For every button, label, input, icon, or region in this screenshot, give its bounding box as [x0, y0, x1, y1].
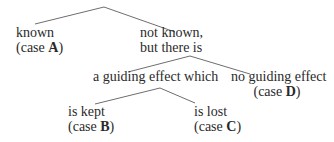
case-letter: A: [48, 40, 58, 55]
node-known: known (case A): [16, 25, 63, 55]
node-is-kept: is kept (case B): [68, 104, 114, 134]
node-guiding-effect: a guiding effect which: [93, 69, 218, 84]
case-suffix: ): [236, 119, 241, 134]
node-is-lost-label: is lost: [194, 104, 241, 119]
node-known-label: known: [16, 25, 63, 40]
node-not-known-line1: not known,: [140, 25, 203, 40]
node-known-case: (case A): [16, 40, 63, 55]
node-is-kept-case: (case B): [68, 119, 114, 134]
node-no-guiding-effect-label: no guiding effect: [231, 69, 323, 84]
case-letter: B: [100, 119, 109, 134]
case-letter: D: [286, 84, 296, 99]
node-guiding-effect-label: a guiding effect which: [93, 69, 218, 84]
node-is-lost-case: (case C): [194, 119, 241, 134]
case-suffix: ): [58, 40, 63, 55]
node-is-kept-label: is kept: [68, 104, 114, 119]
case-prefix: (case: [194, 119, 226, 134]
case-prefix: (case: [16, 40, 48, 55]
edge-guiding-effect-is-lost: [160, 88, 195, 103]
node-no-guiding-effect: no guiding effect (case D): [231, 69, 323, 99]
edge-root-known: [35, 7, 104, 24]
case-prefix: (case: [68, 119, 100, 134]
case-suffix: ): [296, 84, 301, 99]
node-is-lost: is lost (case C): [194, 104, 241, 134]
case-suffix: ): [110, 119, 115, 134]
node-no-guiding-effect-case: (case D): [231, 84, 323, 99]
case-letter: C: [226, 119, 236, 134]
node-not-known-line2: but there is: [140, 40, 203, 55]
edge-guiding-effect-is-kept: [95, 88, 160, 104]
case-prefix: (case: [253, 84, 285, 99]
node-not-known: not known, but there is: [140, 25, 203, 55]
